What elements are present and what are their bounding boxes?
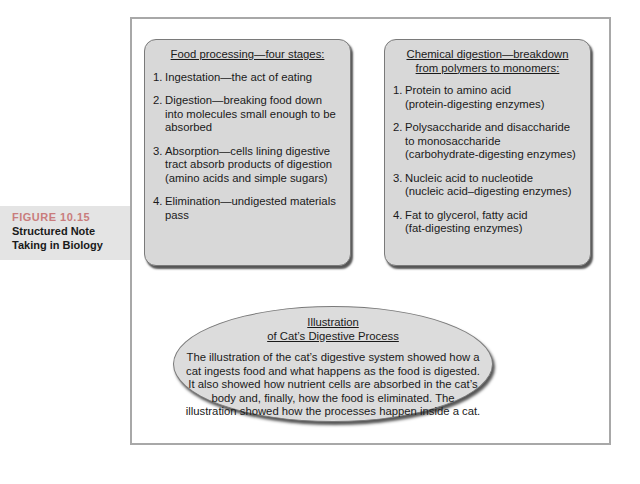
illustration-summary-ellipse: Illustration of Cat’s Digestive Process …	[173, 306, 493, 422]
list-item: 1.Ingestation—the act of eating	[153, 71, 342, 85]
chemical-digestion-box: Chemical digestion—breakdown from polyme…	[384, 39, 591, 266]
list-item: 2.Digestion—breaking food down into mole…	[153, 94, 342, 135]
figure-title-line-1: Structured Note	[12, 224, 131, 238]
figure-title-line-2: Taking in Biology	[12, 238, 131, 252]
figure-number: FIGURE 10.15	[12, 211, 131, 224]
chemical-digestion-heading: Chemical digestion—breakdown from polyme…	[393, 48, 582, 75]
list-item: 4.Elimination—undigested materials pass	[153, 195, 342, 222]
list-item: 1.Protein to amino acid(protein-digestin…	[393, 84, 582, 111]
list-item: 4.Fat to glycerol, fatty acid(fat-digest…	[393, 209, 582, 236]
list-item: 3.Absorption—cells lining digestive trac…	[153, 145, 342, 186]
illustration-heading: Illustration of Cat’s Digestive Process	[267, 316, 399, 343]
list-item: 2.Polysaccharide and disaccharide to mon…	[393, 121, 582, 162]
food-processing-box: Food processing—four stages: 1.Ingestati…	[144, 39, 351, 266]
food-processing-heading: Food processing—four stages:	[153, 48, 342, 62]
chemical-digestion-list: 1.Protein to amino acid(protein-digestin…	[393, 84, 582, 236]
illustration-summary-text: The illustration of the cat’s digestive …	[185, 351, 481, 419]
figure-frame: Food processing—four stages: 1.Ingestati…	[130, 17, 611, 445]
food-processing-list: 1.Ingestation—the act of eating 2.Digest…	[153, 71, 342, 223]
figure-caption: FIGURE 10.15 Structured Note Taking in B…	[0, 206, 131, 260]
list-item: 3.Nucleic acid to nucleotide(nucleic aci…	[393, 172, 582, 199]
